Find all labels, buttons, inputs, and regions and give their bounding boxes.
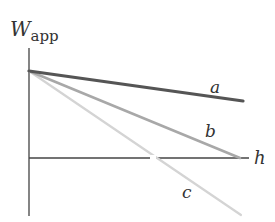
x-axis-label: h xyxy=(254,147,266,168)
line-b xyxy=(29,71,240,158)
y-axis-label: Wapp xyxy=(10,17,59,45)
line-c-label: c xyxy=(182,182,192,202)
axis-gap xyxy=(150,155,156,161)
weight-vs-height-diagram: Wapp h a b c xyxy=(0,0,275,222)
line-a-label: a xyxy=(210,77,220,97)
line-b-label: b xyxy=(205,121,216,141)
